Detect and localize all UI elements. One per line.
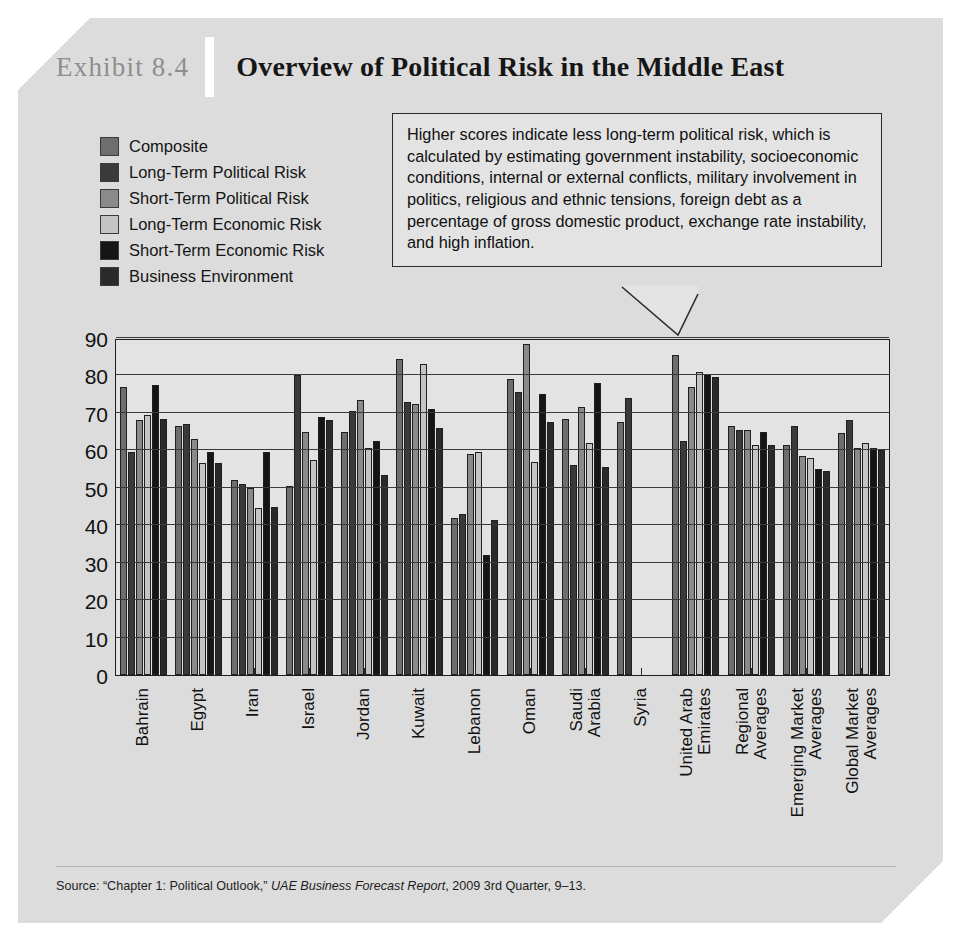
chart-legend: CompositeLong-Term Political RiskShort-T…	[100, 133, 400, 289]
legend-swatch-icon	[100, 163, 119, 182]
bar	[712, 377, 719, 675]
y-axis-tick-label: 90	[85, 329, 108, 350]
x-axis-label-slot: United ArabEmirates	[669, 684, 724, 864]
bar	[373, 441, 380, 675]
legend-item: Business Environment	[100, 263, 400, 289]
legend-swatch-icon	[100, 241, 119, 260]
bar-group	[613, 340, 668, 675]
bar	[191, 439, 198, 675]
x-axis-tick-label: SaudiArabia	[567, 688, 604, 737]
bar	[878, 450, 885, 675]
gridline	[116, 337, 889, 338]
bar	[578, 407, 585, 675]
bar	[768, 445, 775, 675]
gridline	[116, 374, 889, 375]
bar	[475, 452, 482, 675]
x-axis-tick	[585, 668, 586, 675]
bar	[507, 379, 514, 675]
y-axis-tick-label: 20	[85, 591, 108, 612]
source-divider	[56, 866, 896, 867]
callout-pointer-icon	[620, 285, 700, 337]
exhibit-number: Exhibit 8.4	[56, 52, 205, 83]
bar-group	[116, 340, 171, 675]
x-axis-tick-label: Global MarketAverages	[844, 688, 881, 794]
x-axis-label-slot: Global MarketAverages	[835, 684, 890, 864]
legend-swatch-icon	[100, 189, 119, 208]
x-axis-label-slot: Lebanon	[447, 684, 502, 864]
x-axis-tick	[530, 668, 531, 675]
x-axis-label-slot: Emerging MarketAverages	[779, 684, 834, 864]
bar-groups	[116, 340, 889, 675]
bar-group	[834, 340, 889, 675]
legend-item: Long-Term Political Risk	[100, 159, 400, 185]
legend-item-label: Long-Term Economic Risk	[129, 215, 322, 234]
x-axis-tick-label: Iran	[244, 688, 262, 717]
source-publication: UAE Business Forecast Report	[271, 879, 445, 893]
x-axis-tick-label: Jordan	[355, 688, 373, 740]
bar-group	[503, 340, 558, 675]
legend-item-label: Long-Term Political Risk	[129, 163, 306, 182]
x-axis-tick	[475, 668, 476, 675]
chart-plot-area	[115, 339, 890, 676]
bar	[483, 555, 490, 675]
x-axis-tick-label: Israel	[300, 688, 318, 730]
bar	[357, 400, 364, 675]
legend-swatch-icon	[100, 215, 119, 234]
bar	[207, 452, 214, 675]
bar	[396, 359, 403, 675]
x-axis-tick	[364, 668, 365, 675]
y-axis-tick-label: 70	[85, 403, 108, 424]
legend-item: Short-Term Economic Risk	[100, 237, 400, 263]
bar	[815, 469, 822, 675]
bar	[459, 514, 466, 675]
legend-item-label: Composite	[129, 137, 208, 156]
legend-item-label: Short-Term Economic Risk	[129, 241, 324, 260]
x-axis-tick	[861, 668, 862, 675]
bar-group	[558, 340, 613, 675]
x-axis-tick	[199, 668, 200, 675]
bar	[420, 364, 427, 675]
y-axis-tick-label: 50	[85, 478, 108, 499]
bar	[531, 462, 538, 675]
x-axis-tick-label: Egypt	[189, 688, 207, 731]
x-axis-tick-label: Bahrain	[133, 688, 151, 747]
bar	[451, 518, 458, 675]
gridline	[116, 599, 889, 600]
bar-group	[668, 340, 723, 675]
bar-group	[226, 340, 281, 675]
bar	[807, 458, 814, 675]
bar	[349, 411, 356, 675]
x-axis-label-slot: Oman	[503, 684, 558, 864]
x-axis-label-slot: Kuwait	[392, 684, 447, 864]
bar	[586, 443, 593, 675]
bar	[728, 426, 735, 675]
bar	[570, 465, 577, 675]
bar	[120, 387, 127, 675]
bar	[491, 520, 498, 675]
bar-group	[337, 340, 392, 675]
x-axis-label-slot: Jordan	[336, 684, 391, 864]
gridline	[116, 449, 889, 450]
exhibit-header: Exhibit 8.4 Overview of Political Risk i…	[56, 36, 916, 98]
x-axis-tick	[806, 668, 807, 675]
legend-item: Composite	[100, 133, 400, 159]
bar	[680, 441, 687, 675]
x-axis-tick	[696, 668, 697, 675]
source-suffix: , 2009 3rd Quarter, 9–13.	[445, 879, 586, 893]
bar	[199, 463, 206, 675]
bar	[175, 426, 182, 675]
x-axis-tick-label: Lebanon	[466, 688, 484, 754]
bar	[152, 385, 159, 675]
bar	[231, 480, 238, 675]
header-divider	[205, 37, 214, 97]
legend-item: Long-Term Economic Risk	[100, 211, 400, 237]
page-title: Overview of Political Risk in the Middle…	[236, 51, 784, 83]
gridline	[116, 524, 889, 525]
bar	[539, 394, 546, 675]
x-axis-tick	[641, 668, 642, 675]
x-axis-tick	[420, 668, 421, 675]
bar	[862, 443, 869, 675]
y-axis-tick-label: 0	[96, 666, 108, 687]
x-axis-tick-label: RegionalAverages	[733, 688, 770, 760]
y-axis-tick-label: 40	[85, 516, 108, 537]
